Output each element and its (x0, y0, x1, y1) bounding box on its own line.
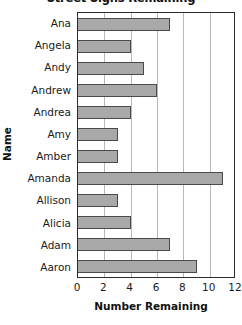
bar-row (78, 167, 234, 189)
bar-chart: Street Signs Remaining Name AnaAngelaAnd… (0, 0, 242, 325)
y-tick-label: Alicia (14, 212, 74, 234)
x-tick-label: 0 (74, 281, 81, 293)
x-tick-label: 6 (153, 281, 160, 293)
y-tick-label: Angela (14, 34, 74, 56)
x-tick-label: 10 (202, 281, 215, 293)
x-axis-title: Number Remaining (60, 300, 242, 312)
bar (77, 238, 170, 251)
x-tick-label: 4 (126, 281, 133, 293)
bars-layer (78, 13, 234, 277)
bar (77, 260, 197, 273)
y-tick-label: Amber (14, 145, 74, 167)
bar (77, 84, 157, 97)
bar-row (78, 189, 234, 211)
bar-row (78, 101, 234, 123)
x-tick-label: 8 (179, 281, 186, 293)
y-tick-label: Adam (14, 234, 74, 256)
bar (77, 128, 118, 141)
bar (77, 150, 118, 163)
bar-row (78, 57, 234, 79)
x-tick-label: 12 (228, 281, 241, 293)
plot-area (77, 12, 235, 278)
bar (77, 62, 144, 75)
bar-row (78, 145, 234, 167)
x-axis-tick-labels: 024681012 (77, 281, 235, 296)
y-tick-label: Ana (14, 12, 74, 34)
bar-row (78, 79, 234, 101)
y-axis-tick-labels: AnaAngelaAndyAndrewAndreaAmyAmberAmandaA… (14, 12, 74, 278)
bar-row (78, 233, 234, 255)
bar-row (78, 211, 234, 233)
bar-row (78, 255, 234, 277)
x-tick-label: 2 (100, 281, 107, 293)
chart-title: Street Signs Remaining (0, 0, 242, 5)
bar-row (78, 35, 234, 57)
y-tick-label: Amy (14, 123, 74, 145)
y-tick-label: Andy (14, 56, 74, 78)
y-tick-label: Amanda (14, 167, 74, 189)
y-tick-label: Aaron (14, 256, 74, 278)
y-tick-label: Andrew (14, 79, 74, 101)
bar-row (78, 123, 234, 145)
bar (77, 216, 131, 229)
y-tick-label: Allison (14, 189, 74, 211)
y-tick-label: Andrea (14, 101, 74, 123)
y-axis-title: Name (1, 114, 13, 174)
bar (77, 40, 131, 53)
bar (77, 194, 118, 207)
bar (77, 172, 223, 185)
bar (77, 106, 131, 119)
bar (77, 18, 170, 31)
bar-row (78, 13, 234, 35)
